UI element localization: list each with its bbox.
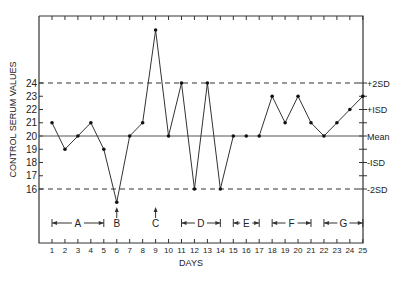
annotation-label: B <box>113 218 120 229</box>
data-point <box>348 108 352 112</box>
arrowhead-right-icon <box>254 221 259 225</box>
data-segment <box>117 136 130 202</box>
x-tick-label: 15 <box>229 246 238 255</box>
data-segment <box>169 83 182 136</box>
annotation-label: E <box>243 218 250 229</box>
plot-frame <box>39 16 363 243</box>
y-tick-label: 22 <box>26 104 38 115</box>
arrowhead-left-icon <box>324 221 329 225</box>
reference-label: +ISD <box>367 105 388 115</box>
arrow-up-icon <box>154 207 158 212</box>
x-tick-label: 17 <box>255 246 264 255</box>
data-segment <box>324 123 337 136</box>
data-point <box>283 121 287 125</box>
data-segment <box>350 96 363 109</box>
data-segment <box>285 96 298 123</box>
data-point <box>50 121 54 125</box>
x-tick-label: 3 <box>76 246 81 255</box>
data-segment <box>311 123 324 136</box>
arrowhead-left-icon <box>182 221 187 225</box>
x-tick-label: 1 <box>50 246 55 255</box>
x-tick-label: 18 <box>268 246 277 255</box>
data-point <box>167 134 171 138</box>
reference-label: +2SD <box>367 79 390 89</box>
x-tick-label: 24 <box>345 246 354 255</box>
data-segment <box>78 123 91 136</box>
data-point <box>102 147 106 151</box>
arrow-up-icon <box>115 207 119 212</box>
control-chart: 1234567891011121314151617181920212223242… <box>0 0 406 281</box>
x-tick-label: 16 <box>242 246 251 255</box>
x-tick-label: 13 <box>203 246 212 255</box>
x-tick-label: 6 <box>115 246 120 255</box>
arrowhead-right-icon <box>306 221 311 225</box>
arrowhead-left-icon <box>233 221 238 225</box>
data-point <box>128 134 132 138</box>
data-segment <box>104 149 117 202</box>
data-point <box>115 200 119 204</box>
x-tick-label: 4 <box>89 246 94 255</box>
y-tick-label: 23 <box>26 91 38 102</box>
x-tick-label: 19 <box>281 246 290 255</box>
data-point <box>154 28 158 32</box>
data-point <box>335 121 339 125</box>
data-segment <box>259 96 272 136</box>
arrowhead-left-icon <box>52 221 57 225</box>
arrowhead-right-icon <box>215 221 220 225</box>
annotation-label: G <box>339 218 347 229</box>
x-tick-label: 25 <box>358 246 367 255</box>
annotation-label: A <box>75 218 82 229</box>
data-point <box>206 81 210 85</box>
data-point <box>361 94 365 98</box>
data-point <box>76 134 80 138</box>
arrowhead-right-icon <box>99 221 104 225</box>
y-tick-label: 17 <box>26 170 38 181</box>
data-point <box>180 81 184 85</box>
x-tick-label: 12 <box>190 246 199 255</box>
x-tick-label: 8 <box>140 246 145 255</box>
x-axis-label: DAYS <box>179 258 203 268</box>
y-tick-label: 16 <box>26 184 38 195</box>
arrowhead-right-icon <box>358 221 363 225</box>
data-point <box>89 121 93 125</box>
data-segment <box>130 123 143 136</box>
annotation-label: D <box>197 218 204 229</box>
data-point <box>219 187 223 191</box>
data-point <box>322 134 326 138</box>
x-tick-label: 5 <box>102 246 107 255</box>
data-point <box>309 121 313 125</box>
x-tick-label: 23 <box>332 246 341 255</box>
data-segment <box>65 136 78 149</box>
data-point <box>193 187 197 191</box>
y-axis-label: CONTROL SERUM VALUES <box>8 61 18 177</box>
data-segment <box>337 110 350 123</box>
y-tick-label: 19 <box>26 144 38 155</box>
arrowhead-left-icon <box>272 221 277 225</box>
x-tick-label: 20 <box>294 246 303 255</box>
data-point <box>296 94 300 98</box>
x-tick-label: 22 <box>319 246 328 255</box>
x-tick-label: 2 <box>63 246 68 255</box>
x-tick-label: 9 <box>153 246 158 255</box>
y-tick-label: 24 <box>26 78 38 89</box>
annotation-label: F <box>289 218 295 229</box>
data-point <box>232 134 236 138</box>
x-tick-label: 11 <box>177 246 186 255</box>
reference-label: -2SD <box>367 185 388 195</box>
reference-label: Mean <box>367 132 390 142</box>
data-point <box>63 147 67 151</box>
y-tick-label: 21 <box>26 117 38 128</box>
y-tick-label: 20 <box>26 131 38 142</box>
annotation-label: C <box>152 218 159 229</box>
x-tick-label: 7 <box>127 246 132 255</box>
x-tick-label: 14 <box>216 246 225 255</box>
data-segment <box>272 96 285 123</box>
data-point <box>244 134 248 138</box>
data-point <box>141 121 145 125</box>
data-point <box>257 134 261 138</box>
x-tick-label: 10 <box>164 246 173 255</box>
data-point <box>270 94 274 98</box>
x-tick-label: 21 <box>307 246 316 255</box>
data-segment <box>143 30 156 123</box>
reference-label: -ISD <box>367 158 386 168</box>
